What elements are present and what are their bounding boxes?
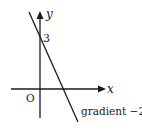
- linear-graph-diagram: y 3 O x gradient −2: [0, 0, 142, 132]
- y-axis-arrow-icon: [37, 11, 44, 19]
- gradient-annotation: gradient −2: [81, 105, 142, 117]
- x-axis-label: x: [107, 82, 114, 96]
- y-intercept-label: 3: [43, 32, 50, 45]
- origin-label: O: [26, 92, 35, 104]
- y-axis-label: y: [45, 7, 53, 21]
- x-axis-arrow-icon: [98, 86, 106, 93]
- graph-line: [29, 12, 78, 122]
- y-axis: [37, 11, 44, 118]
